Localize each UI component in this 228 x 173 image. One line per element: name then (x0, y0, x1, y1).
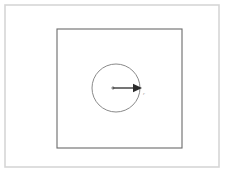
figure-canvas: Circle inscribed in a square with radius… (0, 0, 228, 173)
radius-label: r (143, 91, 145, 96)
canvas-background (0, 0, 228, 173)
geometry-diagram: Circle inscribed in a square with radius… (0, 0, 228, 173)
